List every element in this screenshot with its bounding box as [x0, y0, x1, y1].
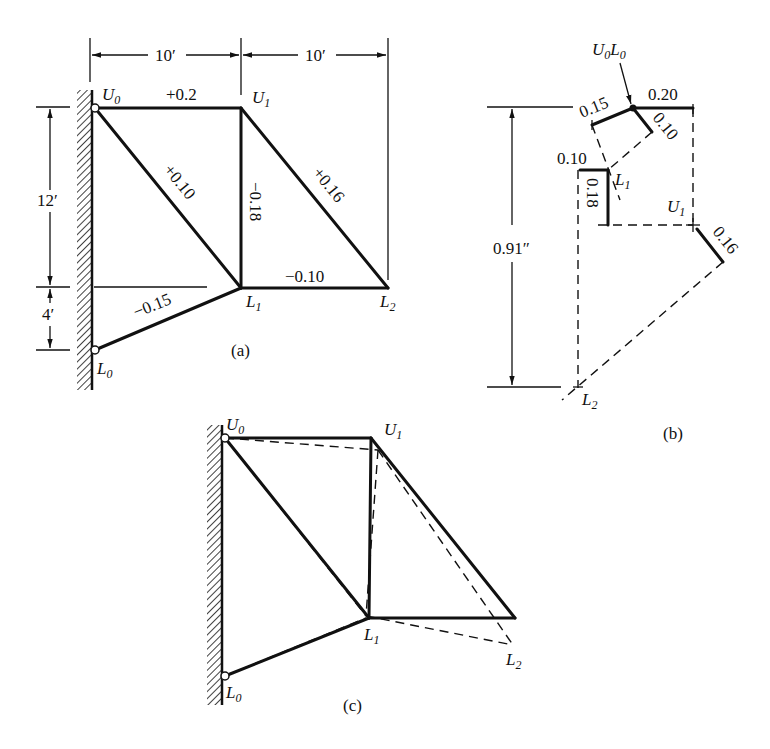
label-u1l1: −0.18	[246, 182, 265, 221]
node-l1-c: L1	[363, 625, 379, 647]
node-u1: U1	[252, 88, 270, 110]
member-u0l1	[95, 108, 241, 288]
panel-c: U0 U1 L1 L2 L0 (c)	[207, 415, 521, 715]
label-l0l1: −0.15	[130, 289, 174, 321]
pin-l0-icon	[91, 346, 99, 354]
panel-a: 10′ 10′ 12′ 4′ +0.2	[36, 38, 395, 390]
label-010a: 0.10	[649, 109, 682, 144]
node-u1-c: U1	[384, 420, 402, 442]
origin-label-u0l0: U0L0	[592, 40, 626, 62]
label-u0u1: +0.2	[166, 85, 197, 104]
dim-12ft: 12′	[37, 191, 58, 210]
truss-deflection-figure: 10′ 10′ 12′ 4′ +0.2	[0, 0, 770, 749]
node-u0: U0	[102, 85, 120, 107]
caption-b: (b)	[663, 424, 683, 443]
caption-c: (c)	[343, 696, 362, 715]
node-l1: L1	[245, 292, 261, 314]
pin-u0-c-icon	[221, 434, 229, 442]
node-l2-b: L2	[581, 390, 597, 412]
origin-pointer-arrow-icon	[620, 63, 631, 104]
dim-4ft: 4′	[42, 305, 54, 324]
node-l2-c: L2	[505, 650, 521, 672]
node-l1-b: L1	[614, 170, 630, 192]
label-010b: 0.10	[557, 149, 587, 168]
pin-l0-c-icon	[221, 672, 229, 680]
label-020: 0.20	[648, 85, 678, 104]
panel-b: 0.91″ U0L0 0.20 0.15 0.10 0.10 0.18 0.16…	[487, 40, 742, 443]
node-u0-c: U0	[226, 415, 244, 437]
label-018: 0.18	[583, 178, 602, 208]
dim-091-label: 0.91″	[493, 239, 530, 258]
pin-u0-icon	[91, 104, 99, 112]
node-l0: L0	[96, 359, 112, 381]
node-l0-c: L0	[225, 683, 241, 705]
wall-support-c	[207, 425, 222, 705]
caption-a: (a)	[231, 341, 250, 360]
dim-10ft-right: 10′	[305, 46, 326, 65]
wall-support	[77, 90, 92, 390]
dim-10ft-left: 10′	[155, 46, 176, 65]
node-l2: L2	[379, 292, 395, 314]
label-015: 0.15	[576, 93, 611, 122]
label-l1l2: −0.10	[285, 267, 324, 286]
node-u1-b: U1	[667, 197, 685, 219]
